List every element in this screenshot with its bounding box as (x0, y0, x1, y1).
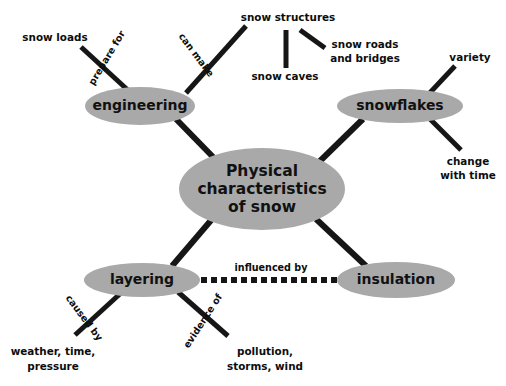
leaf-snow-structures: snow structures (241, 11, 336, 23)
node-insulation-label: insulation (357, 271, 435, 287)
leaf-change-with-time-line2: with time (440, 169, 496, 181)
link-label-can-make: can make (177, 31, 217, 79)
snowflakes-to-change-with-time (428, 117, 461, 150)
leaf-snow-roads-and-bridges-line2: and bridges (330, 52, 400, 64)
leaf-pollution-storms-wind-line1: pollution, (237, 345, 293, 357)
link-label-caused-by: caused by (64, 293, 106, 344)
center-to-insulation (316, 219, 366, 266)
leaf-pollution-storms-wind-line2: storms, wind (227, 360, 303, 372)
node-labels-layer: Physical characteristics of snow enginee… (93, 97, 444, 287)
center-to-layering (172, 218, 213, 266)
node-center-label-line1: Physical (226, 162, 298, 180)
leaf-change-with-time-line1: change (447, 155, 489, 167)
node-snowflakes-label: snowflakes (356, 97, 443, 113)
snowflakes-to-center (319, 119, 363, 162)
leaf-snow-loads: snow loads (22, 31, 87, 43)
node-center-label-line3: of snow (228, 198, 296, 216)
node-center-label-line2: characteristics (197, 180, 326, 198)
leaf-snow-caves: snow caves (251, 70, 318, 82)
leaf-weather-time-pressure-line2: pressure (27, 360, 79, 372)
leaf-weather-time-pressure-line1: weather, time, (11, 345, 96, 357)
link-label-influenced-by: influenced by (235, 262, 309, 273)
leaf-variety: variety (449, 51, 490, 63)
concept-map-canvas: Physical characteristics of snow enginee… (0, 0, 506, 386)
node-layering-label: layering (110, 271, 174, 287)
snow-structures-to-snow-roads (300, 30, 325, 48)
leaf-snow-roads-and-bridges-line1: snow roads (332, 38, 399, 50)
node-engineering-label: engineering (93, 97, 188, 113)
engineering-to-center (176, 119, 215, 159)
concept-map-diagram: Physical characteristics of snow enginee… (0, 0, 506, 386)
